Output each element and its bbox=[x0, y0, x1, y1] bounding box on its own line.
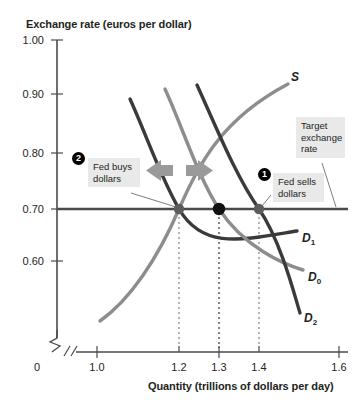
curve-label-S: S bbox=[291, 70, 299, 84]
curve-label-D2-base: D bbox=[304, 311, 313, 325]
annotation-badge-2: 2 bbox=[72, 152, 85, 165]
supply-curve-S bbox=[100, 84, 288, 321]
annotation-badge-1: 1 bbox=[258, 168, 271, 181]
callout-target-line1: Target bbox=[301, 120, 341, 132]
callout-target-line2: exchange bbox=[301, 132, 341, 144]
callout-fed-sells-line1: Fed sells bbox=[278, 176, 320, 188]
curve-label-D2: D2 bbox=[304, 311, 317, 327]
exchange-rate-chart-figure: Exchange rate (euros per dollar) Quantit… bbox=[0, 0, 360, 404]
curve-label-D2-sub: 2 bbox=[313, 318, 317, 327]
curve-label-D0: D0 bbox=[308, 270, 321, 286]
curve-label-D0-sub: 0 bbox=[317, 277, 321, 286]
curve-label-D0-base: D bbox=[308, 270, 317, 284]
curve-label-D1-base: D bbox=[302, 231, 311, 245]
callout-target-exchange-rate: Target exchange rate bbox=[296, 117, 345, 158]
curve-label-S-text: S bbox=[291, 70, 299, 84]
callout-fed-sells-line2: dollars bbox=[278, 188, 320, 200]
equilibrium-dot-1.3 bbox=[213, 203, 225, 215]
callout-fed-sells-dollars: Fed sells dollars bbox=[273, 173, 324, 202]
leader-line-target-rate bbox=[322, 163, 336, 207]
leader-line-fed-sells bbox=[262, 195, 271, 206]
callout-target-line3: rate bbox=[301, 143, 341, 155]
axis-break-slash-2 bbox=[71, 346, 77, 356]
equilibrium-dot-1.2 bbox=[174, 204, 184, 214]
curve-label-D1: D1 bbox=[302, 231, 315, 247]
plot-area bbox=[0, 0, 360, 404]
axis-break-mark bbox=[50, 330, 60, 352]
curve-label-D1-sub: 1 bbox=[311, 238, 315, 247]
callout-fed-buys-dollars: Fed buys dollars bbox=[88, 158, 140, 187]
axis-break-slash-1 bbox=[64, 346, 70, 356]
leader-line-fed-buys bbox=[131, 193, 176, 207]
callout-fed-buys-line1: Fed buys bbox=[93, 161, 136, 173]
callout-fed-buys-line2: dollars bbox=[93, 173, 136, 185]
